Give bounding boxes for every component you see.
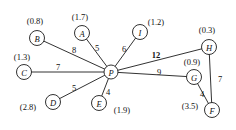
node-value-a: (1.7) (72, 13, 88, 22)
node-value-i: (1.2) (148, 18, 164, 27)
graph-node-h[interactable] (202, 40, 217, 55)
edge-weight-h-p: 12 (152, 51, 161, 60)
edge-weight-b-p: 8 (72, 46, 76, 55)
graph-node-c[interactable] (17, 65, 32, 80)
edge-weight-c-p: 7 (56, 63, 60, 72)
graph-node-b[interactable] (30, 31, 45, 46)
edge-weight-a-p: 5 (95, 44, 99, 53)
node-value-f: (3.5) (182, 102, 198, 111)
node-value-b: (0.8) (27, 17, 43, 26)
graph-edge-g-p (118, 72, 187, 76)
weighted-graph-diagram: 85612795474B(0.8)A(1.7)I(1.2)H(0.3)C(1.3… (0, 0, 236, 130)
edge-weight-g-p: 9 (157, 68, 161, 77)
node-value-d: (2.8) (20, 103, 36, 112)
graph-node-a[interactable] (75, 26, 90, 41)
graph-node-p[interactable] (104, 65, 118, 79)
node-value-g: (0.9) (184, 58, 200, 67)
node-value-h: (0.3) (199, 26, 215, 35)
graph-node-i[interactable] (133, 25, 148, 40)
node-value-c: (1.3) (14, 53, 30, 62)
graph-edge-d-p (60, 75, 105, 98)
graph-node-e[interactable] (92, 96, 107, 111)
graph-node-f[interactable] (205, 103, 220, 118)
edge-weight-h-f: 7 (218, 75, 222, 84)
edge-weight-g-f: 4 (200, 90, 204, 99)
node-value-e: (1.9) (114, 106, 130, 115)
graph-edge-h-f (209, 54, 211, 102)
edge-weight-d-p: 5 (72, 84, 76, 93)
graph-node-d[interactable] (46, 95, 61, 110)
edge-weight-e-p: 4 (106, 88, 110, 97)
edge-weight-i-p: 6 (122, 45, 126, 54)
graph-node-g[interactable] (187, 70, 202, 85)
